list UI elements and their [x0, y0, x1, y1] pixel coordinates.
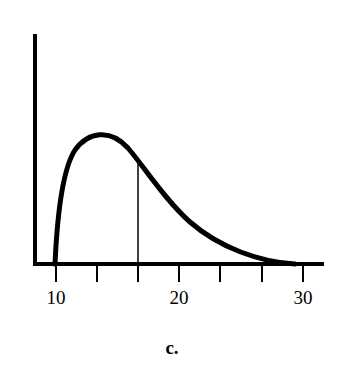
density-curve — [55, 135, 295, 264]
density-chart: 10 20 30 c. — [0, 0, 341, 370]
tick-label-30: 30 — [294, 287, 313, 308]
tick-label-20: 20 — [170, 287, 189, 308]
x-axis-ticks — [56, 264, 303, 282]
figure-caption: c. — [165, 337, 178, 358]
tick-label-10: 10 — [47, 287, 66, 308]
